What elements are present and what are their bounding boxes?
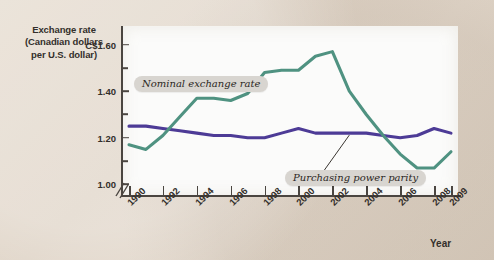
y-tick-label: 1.00 bbox=[60, 179, 116, 190]
y-axis-title-line-1: Exchange rate bbox=[8, 24, 120, 36]
callout-nominal-exchange-rate: Nominal exchange rate bbox=[134, 76, 268, 92]
y-tick-label: 1.20 bbox=[60, 132, 116, 143]
figure-container: Exchange rate (Canadian dollars per U.S.… bbox=[0, 0, 494, 260]
y-axis-title-line-3: per U.S. dollar) bbox=[8, 49, 120, 61]
y-tick-label: 1.40 bbox=[60, 86, 116, 97]
callout-purchasing-power-parity: Purchasing power parity bbox=[285, 170, 426, 186]
x-axis-title: Year bbox=[430, 238, 451, 249]
y-tick-label: C$1.60 bbox=[60, 39, 116, 50]
